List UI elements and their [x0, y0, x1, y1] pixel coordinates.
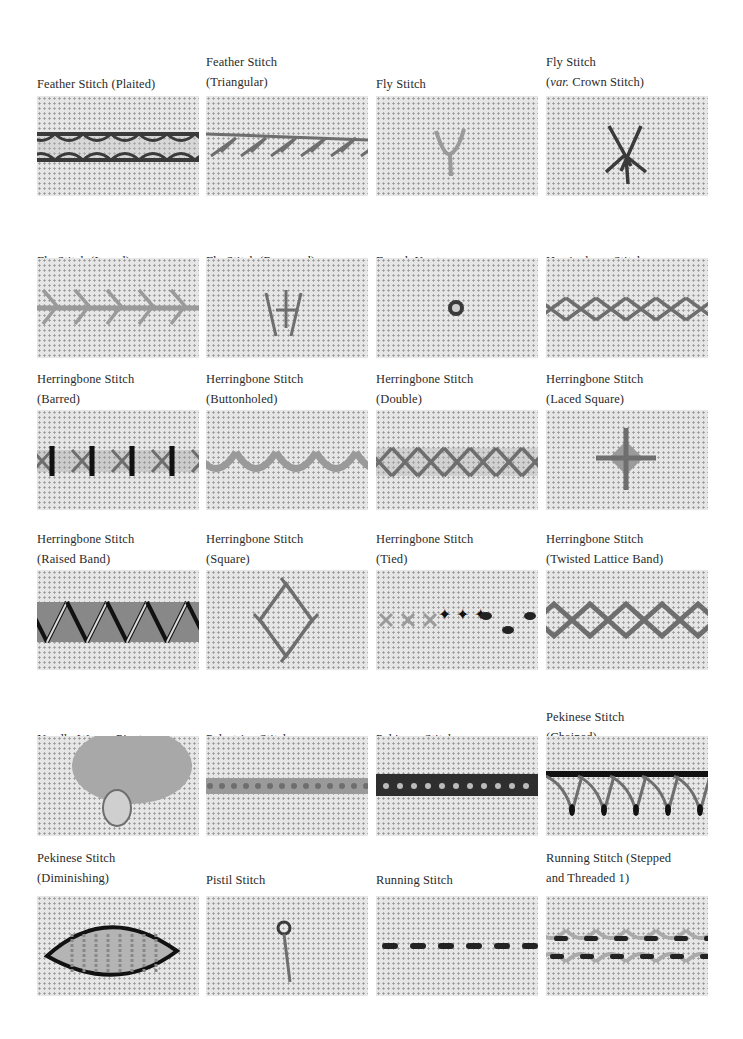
pekinese-chained-stitch-sample	[546, 736, 708, 836]
stitch-name-line1: Running Stitch (Stepped	[546, 848, 671, 868]
stitch-name-line1: Herringbone Stitch	[546, 369, 643, 389]
herringbone-barred-stitch-sample	[37, 410, 199, 510]
stitch-name-line1: Herringbone Stitch	[37, 529, 134, 549]
stitch-name-line2: (Raised Band)	[37, 549, 134, 569]
stitch-caption: Feather Stitch(Triangular)	[206, 52, 280, 92]
stitch-photo	[546, 896, 708, 996]
stitch-photo	[376, 258, 538, 358]
stitch-photo	[37, 736, 199, 836]
stitch-name-line2: (Tied)	[376, 549, 473, 569]
stitch-photo	[546, 258, 708, 358]
stitch-photo	[206, 258, 368, 358]
stitch-name-line1: Herringbone Stitch	[546, 529, 675, 549]
stitch-name-line2: (Double)	[376, 389, 473, 409]
stitch-caption: Herringbone Stitch(Double)	[376, 369, 473, 409]
stitch-photo	[376, 736, 538, 836]
feather-stitch-plaited-stitch-sample	[37, 96, 199, 196]
fly-stitch-reversed-stitch-sample	[206, 258, 368, 358]
stitch-name-line2: (Square)	[206, 549, 303, 569]
herringbone-twisted-lattice-stitch-sample	[546, 570, 708, 670]
feather-stitch-triangular-stitch-sample	[206, 96, 368, 196]
herringbone-square-stitch-sample	[206, 570, 368, 670]
stitch-caption: Running Stitch	[376, 870, 465, 890]
stitch-name-line1: Pekinese Stitch	[546, 707, 624, 727]
stitch-photo	[206, 410, 368, 510]
stitch-caption: Herringbone Stitch(Tied)	[376, 529, 473, 569]
stitch-photo	[206, 896, 368, 996]
stitch-caption: Herringbone Stitch(Twisted Lattice Band)	[546, 529, 675, 569]
fly-stitch-stitch-sample	[376, 96, 538, 196]
fly-stitch-laced-stitch-sample	[37, 258, 199, 358]
herringbone-tied-stitch-sample: ✦✦✦	[376, 570, 538, 670]
pistil-stitch-stitch-sample	[206, 896, 368, 996]
stitch-photo	[376, 896, 538, 996]
stitch-photo	[546, 96, 708, 196]
herringbone-buttonholed-stitch-sample	[206, 410, 368, 510]
stitch-name-line1: Herringbone Stitch	[206, 369, 303, 389]
stitch-name-line2: (var. Crown Stitch)	[546, 72, 656, 92]
running-stitch-stepped-threaded-stitch-sample	[546, 896, 708, 996]
stitch-name-line1: Herringbone Stitch	[376, 369, 473, 389]
pekinese-diminishing-stitch-sample	[37, 896, 199, 996]
svg-text:✦: ✦	[456, 606, 469, 623]
stitch-caption: Herringbone Stitch(Square)	[206, 529, 303, 569]
stitch-name-line1: Fly Stitch	[546, 52, 656, 72]
stitch-caption: Pistil Stitch	[206, 870, 277, 890]
herringbone-raised-band-stitch-sample	[37, 570, 199, 670]
stitch-photo	[206, 736, 368, 836]
stitch-name-line1: Herringbone Stitch	[376, 529, 473, 549]
stitch-caption: Fly Stitch(var. Crown Stitch)	[546, 52, 656, 92]
stitch-photo	[376, 96, 538, 196]
stitch-photo	[376, 410, 538, 510]
stitch-name-line2: (Diminishing)	[37, 868, 121, 888]
stitch-name-line2: (Laced Square)	[546, 389, 643, 409]
stitch-photo	[546, 410, 708, 510]
fly-stitch-crown-stitch-sample	[546, 96, 708, 196]
stitch-photo	[546, 570, 708, 670]
herringbone-stitch-stitch-sample	[546, 258, 708, 358]
stitch-name-line1: Pistil Stitch	[206, 870, 277, 890]
stitch-caption: Fly Stitch	[376, 74, 438, 94]
herringbone-laced-square-stitch-sample	[546, 410, 708, 510]
stitch-caption: Running Stitch (Steppedand Threaded 1)	[546, 848, 671, 888]
stitch-photo	[206, 570, 368, 670]
stitch-name-line1: Running Stitch	[376, 870, 465, 890]
stitch-photo	[37, 258, 199, 358]
stitch-photo	[546, 736, 708, 836]
stitch-name-line1: Fly Stitch	[376, 74, 438, 94]
stitch-caption: Herringbone Stitch(Barred)	[37, 369, 134, 409]
pekinese-stitch-stitch-sample	[376, 736, 538, 836]
svg-text:✦: ✦	[438, 606, 451, 623]
stitch-name-line1: Herringbone Stitch	[206, 529, 303, 549]
stitch-caption: Pekinese Stitch(Diminishing)	[37, 848, 121, 888]
stitch-name-line1: Herringbone Stitch	[37, 369, 134, 389]
stitch-photo	[37, 96, 199, 196]
stitch-name-line1: Feather Stitch (Plaited)	[37, 74, 167, 94]
stitch-photo	[206, 96, 368, 196]
stitch-photo	[37, 410, 199, 510]
stitch-name-line2: (Triangular)	[206, 72, 280, 92]
stitch-name-line2: (Barred)	[37, 389, 134, 409]
stitch-name-line1: Feather Stitch	[206, 52, 280, 72]
stitch-photo: ✦✦✦	[376, 570, 538, 670]
variant-abbrev: var.	[550, 75, 569, 89]
needle-woven-picot-stitch-sample	[37, 736, 199, 836]
palestrina-stitch-stitch-sample	[206, 736, 368, 836]
french-knot-stitch-sample	[376, 258, 538, 358]
stitch-photo	[37, 896, 199, 996]
stitch-name-line1: Pekinese Stitch	[37, 848, 121, 868]
stitch-name-line2: and Threaded 1)	[546, 868, 671, 888]
stitch-caption: Herringbone Stitch(Laced Square)	[546, 369, 643, 409]
stitch-caption: Feather Stitch (Plaited)	[37, 74, 167, 94]
running-stitch-stitch-sample	[376, 896, 538, 996]
stitch-photo	[37, 570, 199, 670]
stitch-name-line2: (Twisted Lattice Band)	[546, 549, 675, 569]
stitch-name-line2: (Buttonholed)	[206, 389, 303, 409]
herringbone-double-stitch-sample	[376, 410, 538, 510]
stitch-caption: Herringbone Stitch(Buttonholed)	[206, 369, 303, 409]
stitch-caption: Herringbone Stitch(Raised Band)	[37, 529, 134, 569]
